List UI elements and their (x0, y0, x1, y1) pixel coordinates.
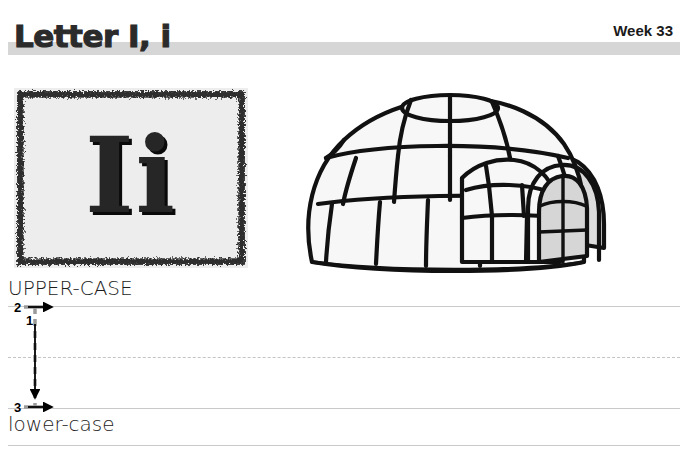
page-title: Letter I, i (14, 18, 171, 54)
ruled-line-baseline (8, 408, 680, 409)
week-label: Week 33 (613, 22, 673, 39)
letter-card: Ii (14, 88, 248, 268)
stroke-number-3: 3 (14, 400, 21, 415)
practice-area: UPPER-CASE lower-case (0, 272, 683, 461)
ruled-line-midline (8, 357, 680, 358)
worksheet-page: Letter I, i Week 33 Ii (0, 0, 683, 461)
stroke-number-1: 1 (26, 313, 33, 328)
ruled-line-bottom (8, 445, 680, 446)
stroke-order-guide: 2 1 3 (12, 298, 74, 416)
letter-display: Ii (14, 124, 248, 228)
upper-case-label: UPPER-CASE (8, 276, 133, 300)
igloo-illustration (296, 66, 683, 288)
ruled-line-top (8, 306, 680, 307)
stroke-number-2: 2 (14, 300, 21, 315)
